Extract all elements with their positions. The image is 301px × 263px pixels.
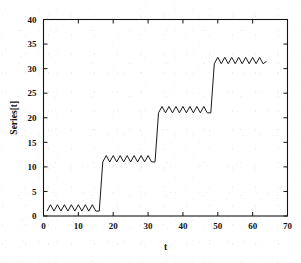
line-chart-svg: 0510152025303540 010203040506070 Series[… — [0, 0, 301, 263]
x-tick-label: 30 — [144, 221, 154, 231]
y-tick-label: 40 — [28, 15, 38, 25]
x-tick-label: 20 — [109, 221, 119, 231]
y-tick-label: 0 — [32, 211, 37, 221]
y-tick-label: 30 — [28, 64, 38, 74]
y-tick-label: 20 — [28, 113, 38, 123]
x-tick-label: 50 — [213, 221, 223, 231]
x-tick-label: 10 — [74, 221, 84, 231]
y-tick-label: 25 — [28, 88, 38, 98]
y-tick-label: 5 — [32, 187, 37, 197]
x-tick-label: 60 — [248, 221, 258, 231]
chart-figure: 0510152025303540 010203040506070 Series[… — [0, 0, 301, 263]
x-tick-label: 0 — [41, 221, 46, 231]
y-axis-label: Series[t] — [9, 101, 19, 135]
y-tick-label: 35 — [28, 39, 38, 49]
y-tick-label: 15 — [28, 138, 38, 148]
x-tick-label: 40 — [178, 221, 188, 231]
y-tick-label: 10 — [28, 162, 38, 172]
x-tick-label: 70 — [283, 221, 293, 231]
